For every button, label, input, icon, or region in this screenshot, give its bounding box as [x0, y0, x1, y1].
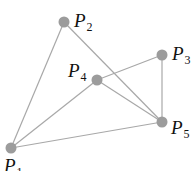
node-label-p3: P3 — [171, 43, 191, 67]
node-p5 — [157, 117, 168, 128]
node-label-p4: P4 — [67, 60, 87, 84]
edge-p1-p5 — [11, 122, 162, 148]
edge-p4-p5 — [97, 80, 162, 122]
node-label-p2: P2 — [73, 10, 93, 34]
edge-p1-p4 — [11, 80, 97, 148]
node-label-p1: P1 — [3, 155, 23, 171]
node-p4 — [92, 75, 103, 86]
edge-p4-p3 — [97, 55, 162, 80]
node-p2 — [59, 17, 70, 28]
graph-diagram: P1P2P3P4P5 — [0, 0, 192, 171]
node-label-p5: P5 — [170, 117, 190, 141]
edge-p1-p2 — [11, 22, 64, 148]
node-p1 — [6, 143, 17, 154]
node-p3 — [157, 50, 168, 61]
